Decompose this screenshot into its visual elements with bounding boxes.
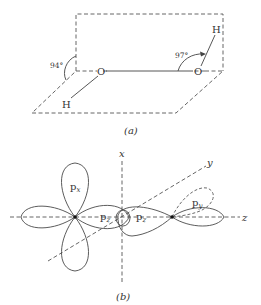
orbital-label-pz-right: pz bbox=[136, 211, 146, 224]
hydrogen-left-label: H bbox=[62, 99, 71, 110]
part-b-orbital-overlap: x y z px pz pz bbox=[10, 148, 248, 302]
z-axis-label: z bbox=[241, 212, 248, 223]
angle-label-94: 94° bbox=[50, 61, 64, 70]
right-atom-orbitals bbox=[116, 188, 224, 236]
hydrogen-right-label: H bbox=[212, 24, 221, 35]
horizontal-plane bbox=[32, 71, 223, 113]
oxygen-left-label: O bbox=[97, 66, 105, 77]
angle-arc-94 bbox=[64, 56, 76, 80]
caption-a: (a) bbox=[124, 125, 138, 136]
hydrogen-peroxide-diagram: O O H H 94° 97° (a) x y z bbox=[0, 0, 261, 305]
right-oh-bond bbox=[201, 35, 215, 66]
x-axis-label: x bbox=[119, 148, 125, 159]
caption-b: (b) bbox=[116, 291, 130, 302]
orbital-label-px: px bbox=[70, 181, 80, 194]
angle-label-97: 97° bbox=[175, 51, 189, 60]
right-nucleus bbox=[170, 215, 174, 219]
orbital-lobe-bottom bbox=[61, 217, 88, 271]
arrowhead-icon bbox=[200, 52, 206, 57]
orbital-lobe-left bbox=[21, 206, 75, 228]
oxygen-right-label: O bbox=[194, 66, 202, 77]
vertical-plane bbox=[76, 14, 223, 71]
left-oh-bond bbox=[71, 76, 98, 98]
part-a-molecule-geometry: O O H H 94° 97° (a) bbox=[32, 14, 223, 136]
y-axis-label: y bbox=[206, 157, 213, 168]
orbital-label-pz-left: pz bbox=[100, 211, 110, 224]
left-nucleus bbox=[73, 215, 77, 219]
